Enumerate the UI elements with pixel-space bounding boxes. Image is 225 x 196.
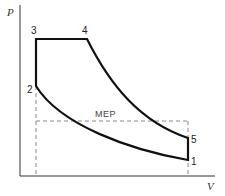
mep-label: MEP <box>95 109 116 119</box>
point-5-label: 5 <box>191 134 197 145</box>
x-axis-label: V <box>207 180 215 192</box>
y-axis-label: P <box>6 6 14 18</box>
pv-diagram: P V 3 4 2 5 1 MEP <box>0 0 225 196</box>
cycle-path <box>36 39 188 160</box>
point-1-label: 1 <box>191 156 197 167</box>
point-4-label: 4 <box>82 25 88 36</box>
point-2-label: 2 <box>27 84 33 95</box>
point-3-label: 3 <box>31 25 37 36</box>
